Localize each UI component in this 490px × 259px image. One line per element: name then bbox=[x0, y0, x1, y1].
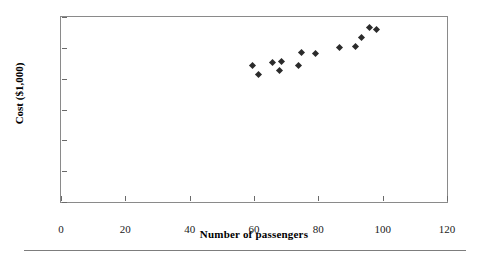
footer-divider bbox=[24, 250, 466, 251]
data-point bbox=[373, 26, 380, 33]
data-point bbox=[352, 43, 359, 50]
data-point bbox=[312, 50, 319, 57]
data-point bbox=[295, 62, 302, 69]
data-point bbox=[366, 24, 373, 31]
y-axis-label: Cost ($1,000) bbox=[11, 0, 27, 187]
data-points-layer bbox=[61, 17, 447, 202]
data-point bbox=[298, 49, 305, 56]
data-point bbox=[358, 33, 365, 40]
data-point bbox=[249, 62, 256, 69]
data-point bbox=[255, 71, 262, 78]
y-axis-tick bbox=[62, 202, 67, 203]
data-point bbox=[336, 44, 343, 51]
data-point bbox=[276, 67, 283, 74]
x-axis-tick bbox=[447, 196, 448, 201]
x-axis-label: Number of passengers bbox=[60, 228, 448, 240]
plot-area: 0123456 020406080100120 bbox=[60, 16, 448, 203]
data-point bbox=[278, 58, 285, 65]
data-point bbox=[269, 59, 276, 66]
scatter-plot-figure: 0123456 020406080100120 Cost ($1,000) Nu… bbox=[0, 0, 490, 259]
